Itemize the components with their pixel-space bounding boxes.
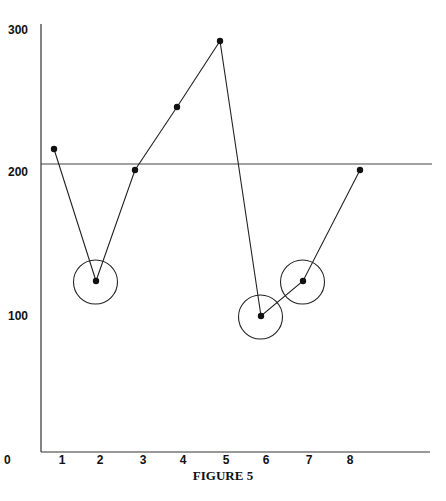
data-point: [93, 278, 99, 284]
x-tick-label: 6: [263, 453, 270, 467]
y-tick-label: 200: [8, 165, 28, 179]
data-point: [132, 167, 138, 173]
x-tick-label: 8: [347, 453, 354, 467]
x-tick-label: 4: [180, 453, 187, 467]
data-point: [357, 167, 363, 173]
data-line: [54, 41, 360, 316]
x-tick-label: 5: [223, 453, 230, 467]
data-point: [174, 104, 180, 110]
x-tick-label: 1: [59, 453, 66, 467]
data-point: [217, 38, 223, 44]
figure-caption-holder: FIGURE 5: [0, 466, 446, 484]
y-tick-label: 300: [8, 23, 28, 37]
data-point: [258, 313, 264, 319]
x-tick-label: 3: [140, 453, 147, 467]
control-chart: 010020030012345678: [0, 0, 446, 501]
x-tick-label: 7: [306, 453, 313, 467]
x-tick-label: 2: [97, 453, 104, 467]
y-tick-label: 100: [8, 309, 28, 323]
y-tick-label: 0: [4, 453, 11, 467]
data-point: [51, 146, 57, 152]
data-point: [300, 278, 306, 284]
figure-caption: FIGURE 5: [193, 468, 253, 483]
